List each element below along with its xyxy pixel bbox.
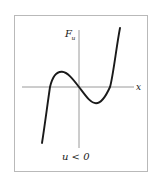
y-axis-label-subscript: u [72,34,76,41]
figure-frame [15,16,148,172]
x-axis-label: x [136,82,141,92]
figure-caption: u < 0 [62,151,90,162]
figure-panel: F u x u < 0 [0,0,162,183]
cubic-function-plot: F u x u < 0 [0,0,162,183]
